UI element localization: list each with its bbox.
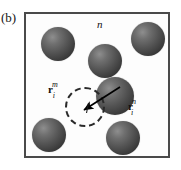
panel-label: (b) — [1, 10, 16, 26]
particle-top-right — [131, 22, 165, 56]
particle-upper-middle — [88, 44, 122, 78]
vector-superscript-n: n — [132, 97, 136, 106]
vector-superscript-m: m — [52, 80, 58, 89]
configuration-label-n: n — [97, 18, 103, 30]
reference-position-circle — [65, 87, 105, 127]
vector-subscript-i-n: i — [131, 108, 133, 117]
particle-bottom-right — [106, 121, 140, 155]
figure-panel-b: (b) n rmi rni — [0, 0, 181, 170]
vector-label-r-i-n: rni — [128, 97, 139, 116]
vector-label-r-i-m: rmi — [48, 80, 61, 99]
particle-bottom-left — [32, 118, 66, 152]
vector-subscript-i-m: i — [53, 91, 55, 100]
particle-top-left — [41, 27, 75, 61]
